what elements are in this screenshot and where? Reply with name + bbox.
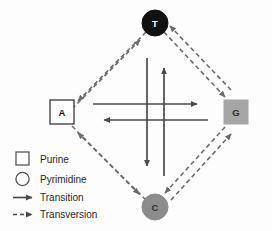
legend-label-pyrimidine: Pyrimidine (40, 174, 87, 185)
square-icon (16, 152, 29, 165)
transversion-arrow-t-to-g (164, 32, 225, 97)
legend-label-transition: Transition (40, 192, 84, 203)
legend-item-purine: Purine (16, 152, 69, 165)
diagram-canvas: T A G C Purine Pyrimidine (0, 0, 272, 231)
node-g[interactable]: G (224, 100, 248, 124)
transversion-arrow-g-to-t (170, 26, 231, 90)
node-g-label: G (232, 107, 239, 118)
legend-item-transversion: Transversion (13, 209, 97, 220)
node-c[interactable]: C (142, 194, 168, 220)
node-a-label: A (59, 107, 66, 118)
transversion-arrow-c-to-g (171, 134, 231, 200)
node-t-label: T (152, 18, 158, 29)
circle-icon (16, 172, 29, 185)
transversion-arrow-g-to-c (165, 127, 225, 193)
node-a[interactable]: A (50, 100, 74, 124)
node-c-label: C (152, 202, 159, 213)
mutation-diagram: T A G C Purine Pyrimidine (0, 0, 272, 231)
legend: Purine Pyrimidine Transition Transversio… (13, 152, 97, 220)
transition-group (93, 58, 208, 176)
node-t[interactable]: T (142, 10, 168, 36)
legend-label-transversion: Transversion (40, 209, 97, 220)
legend-item-pyrimidine: Pyrimidine (16, 172, 87, 185)
legend-label-purine: Purine (40, 154, 69, 165)
transversion-arrow-t-to-a (78, 32, 146, 101)
legend-item-transition: Transition (13, 192, 84, 203)
transversion-group (72, 26, 231, 200)
transversion-arrow-a-to-t (72, 40, 140, 109)
transversion-arrow-c-to-a (78, 133, 146, 200)
